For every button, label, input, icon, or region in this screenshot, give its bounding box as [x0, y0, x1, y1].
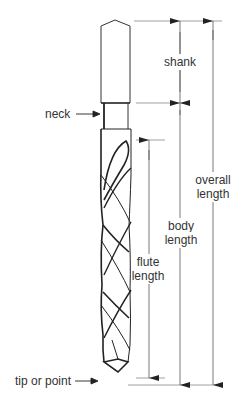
drill-diagram — [0, 0, 247, 409]
shank-label: shank — [164, 54, 196, 70]
neck-label: neck — [45, 107, 70, 121]
flute-label-line2: length — [132, 268, 165, 284]
callout-arrows — [75, 111, 100, 384]
tip-label: tip or point — [15, 374, 71, 388]
extension-lines — [128, 21, 222, 385]
overall-label-line2: length — [197, 186, 230, 202]
drill-body — [101, 129, 131, 372]
shank — [101, 20, 130, 103]
neck — [104, 103, 128, 129]
body-label-line2: length — [165, 232, 198, 248]
